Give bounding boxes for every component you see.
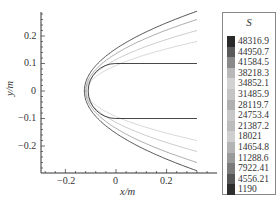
color-legend: S 48316.944950.741584.538218.334852.1314…: [222, 12, 276, 195]
x-axis-title: x/m: [120, 186, 135, 197]
legend-swatch: [227, 174, 235, 185]
contour-line: [86, 31, 197, 152]
legend-swatch: [227, 57, 235, 68]
y-tick-label: −0.1: [18, 112, 36, 123]
legend-swatch: [227, 78, 235, 89]
x-ticks: [45, 169, 207, 173]
legend-swatch: [227, 142, 235, 153]
legend-swatch: [227, 36, 235, 47]
y-axis-title: y/m: [4, 81, 15, 96]
y-tick-label: 0: [31, 85, 36, 96]
legend-swatch: [227, 68, 235, 79]
y-ticks: [41, 14, 45, 168]
x-tick-label: 0: [113, 175, 118, 186]
legend-swatch: [227, 100, 235, 111]
legend-swatch: [227, 121, 235, 132]
legend-swatch: [227, 131, 235, 142]
legend-label: 1190: [238, 183, 257, 195]
x-tick-label: −0.2: [57, 175, 75, 186]
legend-item: 1190: [223, 184, 275, 195]
x-tick-label: 0.2: [160, 175, 173, 186]
legend-swatch: [227, 184, 235, 195]
y-tick-label: −0.2: [18, 140, 36, 151]
contour-line: [87, 42, 197, 141]
y-tick-label: 0.1: [24, 57, 37, 68]
body-outline: [88, 64, 197, 119]
legend-swatch: [227, 163, 235, 174]
axes: [41, 12, 217, 173]
y-tick-label: 0.2: [24, 30, 37, 41]
legend-title: S: [223, 16, 275, 28]
body-surface: [88, 64, 197, 119]
legend-swatch: [227, 89, 235, 100]
contour-lines: [84, 11, 197, 171]
legend-swatch: [227, 153, 235, 164]
legend-swatch: [227, 110, 235, 121]
contour-line: [86, 20, 197, 163]
legend-swatch: [227, 47, 235, 58]
